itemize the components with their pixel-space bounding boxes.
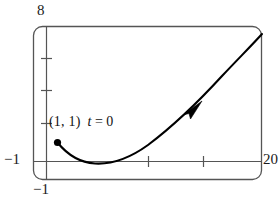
y-axis-max-label: 8	[37, 3, 45, 18]
initial-condition-annotation: (1, 1)t = 0	[49, 115, 113, 129]
parametric-curve-figure	[0, 0, 279, 202]
x-axis-min-label: −1	[33, 182, 49, 197]
initial-point-coordinates: (1, 1)	[49, 114, 81, 129]
x-axis-max-label: 20	[263, 152, 278, 167]
figure-background	[0, 0, 279, 202]
y-axis-min-label: −1	[4, 152, 20, 167]
parameter-value: = 0	[91, 114, 113, 129]
initial-point-marker	[54, 139, 61, 146]
parameter-value-label: t = 0	[88, 114, 114, 129]
